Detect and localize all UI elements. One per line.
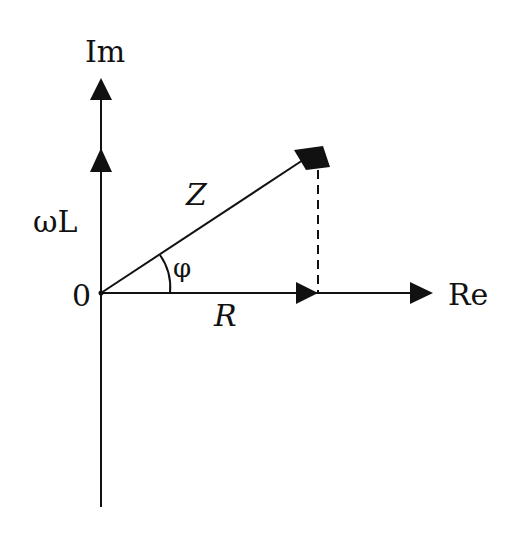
origin-label: 0 [72, 278, 91, 313]
reactance-label: ωL [33, 204, 77, 239]
angle-arc [160, 255, 170, 293]
impedance-vector [101, 146, 330, 293]
impedance-label: Z [185, 177, 208, 212]
reactance-arrowhead-icon [90, 148, 112, 172]
resistance-label: R [213, 298, 237, 333]
re-axis-label: Re [448, 277, 488, 312]
origin-point [99, 291, 104, 296]
im-axis-arrowhead-icon [90, 78, 112, 100]
angle-label: φ [173, 253, 191, 283]
real-axis [101, 282, 433, 304]
phasor-diagram: Im Re 0 ωL Z R φ [0, 0, 528, 533]
re-axis-arrowhead-icon [410, 282, 433, 304]
impedance-arrowhead-icon [294, 146, 330, 170]
resistance-arrowhead-icon [296, 282, 318, 304]
im-axis-label: Im [85, 34, 125, 69]
